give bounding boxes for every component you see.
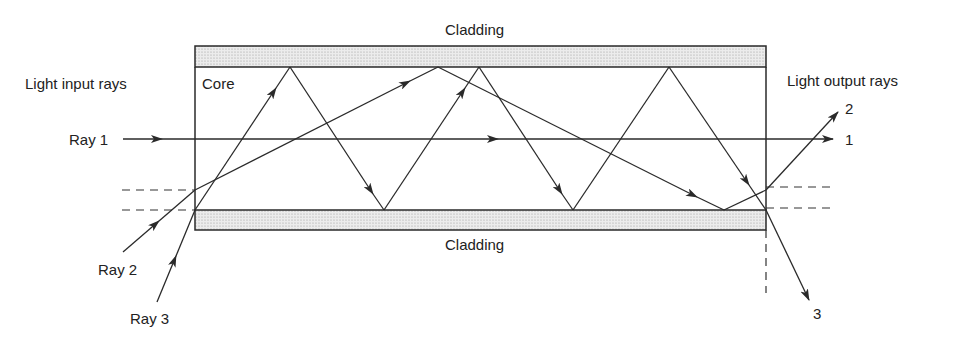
ray-3-path xyxy=(157,67,809,302)
ray-1-label: Ray 1 xyxy=(69,132,108,147)
top-cladding xyxy=(195,46,766,67)
output-2-label: 2 xyxy=(845,101,853,116)
cladding-bottom-label: Cladding xyxy=(445,237,504,252)
bottom-cladding xyxy=(195,210,766,230)
ray-3-label: Ray 3 xyxy=(130,311,169,326)
core-label: Core xyxy=(202,76,235,91)
cladding-top-label: Cladding xyxy=(445,22,504,37)
input-heading: Light input rays xyxy=(25,76,127,91)
ray-2-label: Ray 2 xyxy=(98,262,137,277)
output-heading: Light output rays xyxy=(787,73,898,88)
fiber-diagram xyxy=(0,0,955,343)
output-1-label: 1 xyxy=(845,132,853,147)
output-3-label: 3 xyxy=(813,306,821,321)
